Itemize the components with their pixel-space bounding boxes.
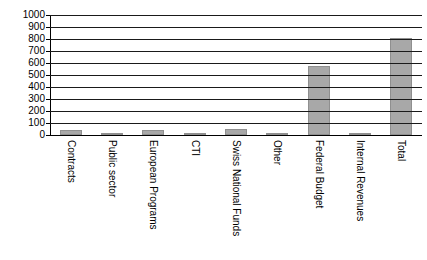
plot-area xyxy=(50,15,422,135)
y-axis-tick xyxy=(46,63,50,64)
x-axis-label-text: European Programs xyxy=(148,140,158,230)
x-axis-label: Internal Revenues xyxy=(339,140,380,252)
y-axis-tick-label: 700 xyxy=(28,46,45,56)
bar xyxy=(266,133,288,135)
x-axis-label-text: Internal Revenues xyxy=(355,140,365,221)
y-axis-tick xyxy=(46,87,50,88)
x-axis-label-text: Total xyxy=(396,140,406,161)
y-axis-tick-label: 300 xyxy=(28,94,45,104)
x-axis-label-text: Federal Budget xyxy=(314,140,324,208)
bar xyxy=(101,133,123,135)
gridline xyxy=(50,63,422,64)
y-axis-tick xyxy=(46,39,50,40)
y-axis-labels: 10009008007006005004003002001000 xyxy=(0,15,45,135)
x-axis-label-text: Contracts xyxy=(66,140,76,183)
y-axis-tick-label: 400 xyxy=(28,82,45,92)
x-axis-label: European Programs xyxy=(133,140,174,252)
y-axis-tick xyxy=(46,111,50,112)
x-axis-label-text: Swiss National Funds xyxy=(231,140,241,236)
bar xyxy=(308,66,330,135)
y-axis-tick xyxy=(46,75,50,76)
x-axis-label: Swiss National Funds xyxy=(215,140,256,252)
gridline xyxy=(50,51,422,52)
bar xyxy=(349,133,371,135)
y-axis-tick-label: 200 xyxy=(28,106,45,116)
y-axis-tick-label: 500 xyxy=(28,70,45,80)
bar xyxy=(184,133,206,135)
bar-chart: 10009008007006005004003002001000 Contrac… xyxy=(0,0,427,260)
y-axis-tick xyxy=(46,27,50,28)
x-axis-line xyxy=(50,135,422,136)
y-axis-tick-label: 100 xyxy=(28,118,45,128)
gridline xyxy=(50,39,422,40)
y-axis-tick xyxy=(46,15,50,16)
gridline xyxy=(50,15,422,16)
y-axis-tick xyxy=(46,135,50,136)
x-axis-label-text: CTI xyxy=(190,140,200,156)
x-axis-label: Federal Budget xyxy=(298,140,339,252)
y-axis-tick xyxy=(46,51,50,52)
gridline xyxy=(50,87,422,88)
gridline xyxy=(50,111,422,112)
y-axis-tick-label: 600 xyxy=(28,58,45,68)
y-axis-tick-label: 800 xyxy=(28,34,45,44)
x-axis-label-text: Public sector xyxy=(107,140,117,197)
x-axis-label: CTI xyxy=(174,140,215,252)
x-axis-label: Other xyxy=(257,140,298,252)
x-axis-label: Contracts xyxy=(50,140,91,252)
y-axis-tick xyxy=(46,99,50,100)
x-axis-labels: ContractsPublic sectorEuropean ProgramsC… xyxy=(50,140,422,255)
gridline xyxy=(50,75,422,76)
gridline xyxy=(50,99,422,100)
x-axis-label: Total xyxy=(381,140,422,252)
x-axis-label: Public sector xyxy=(91,140,132,252)
y-axis-tick xyxy=(46,123,50,124)
gridline xyxy=(50,27,422,28)
bar xyxy=(60,130,82,135)
bar xyxy=(142,130,164,135)
x-axis-label-text: Other xyxy=(272,140,282,165)
y-axis-tick-label: 1000 xyxy=(23,10,45,20)
y-axis-tick-label: 900 xyxy=(28,22,45,32)
y-axis-tick-label: 0 xyxy=(39,130,45,140)
bar xyxy=(225,129,247,135)
gridline xyxy=(50,123,422,124)
